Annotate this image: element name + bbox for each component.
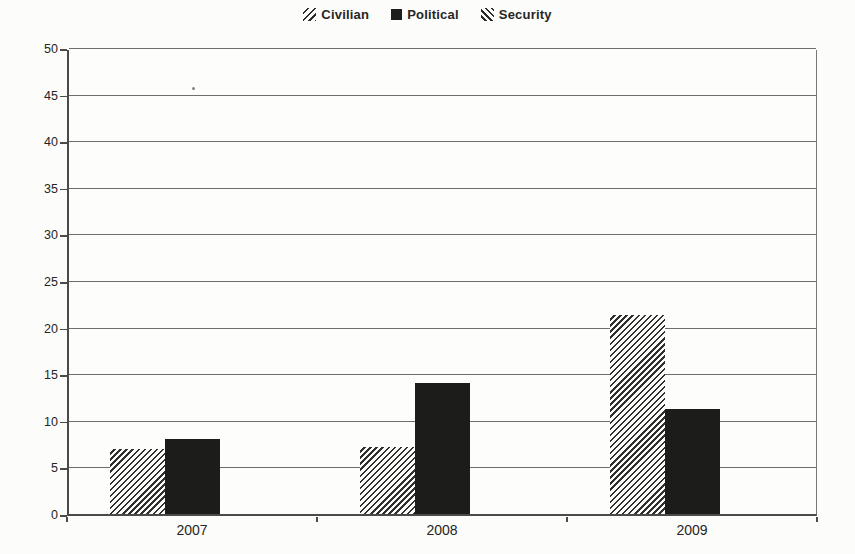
bar-civilian-2007 xyxy=(110,449,165,514)
legend-label-civilian: Civilian xyxy=(321,7,369,22)
bar-political-2007 xyxy=(165,439,220,514)
bar-political-2008 xyxy=(415,383,470,514)
scan-speck xyxy=(192,87,195,90)
x-tick-label-2008: 2008 xyxy=(397,522,487,538)
gridline-30 xyxy=(69,234,816,235)
y-tick-mark-15 xyxy=(60,375,67,377)
y-tick-label-5: 5 xyxy=(16,461,58,475)
scanned-bar-chart: Civilian Political Security 051015202530… xyxy=(0,0,855,554)
legend-item-security: Security xyxy=(481,7,552,22)
y-tick-mark-5 xyxy=(60,468,67,470)
y-tick-label-20: 20 xyxy=(16,322,58,336)
gridline-20 xyxy=(69,328,816,329)
y-tick-mark-20 xyxy=(60,329,67,331)
y-tick-mark-45 xyxy=(60,96,67,98)
security-hatch-swatch-icon xyxy=(481,8,494,21)
x-tick-mark-2 xyxy=(566,517,568,522)
x-tick-mark-3 xyxy=(816,517,818,522)
x-tick-mark-0 xyxy=(66,517,68,522)
bar-security-2008 xyxy=(470,166,525,514)
y-tick-mark-40 xyxy=(60,142,67,144)
gridline-40 xyxy=(69,141,816,142)
legend-item-political: Political xyxy=(391,7,459,22)
y-tick-mark-30 xyxy=(60,235,67,237)
gridline-45 xyxy=(69,95,816,96)
political-solid-swatch-icon xyxy=(391,9,402,20)
legend-item-civilian: Civilian xyxy=(303,7,369,22)
bar-security-2009 xyxy=(720,110,775,514)
y-tick-label-50: 50 xyxy=(16,42,58,56)
y-tick-label-30: 30 xyxy=(16,228,58,242)
legend-label-political: Political xyxy=(407,7,459,22)
y-tick-mark-10 xyxy=(60,422,67,424)
y-tick-label-0: 0 xyxy=(16,508,58,522)
bar-civilian-2008 xyxy=(360,447,415,514)
y-tick-label-40: 40 xyxy=(16,135,58,149)
x-tick-label-2007: 2007 xyxy=(147,522,237,538)
y-tick-label-25: 25 xyxy=(16,275,58,289)
civilian-hatch-swatch-icon xyxy=(303,8,316,21)
bar-civilian-2009 xyxy=(610,315,665,514)
y-tick-label-15: 15 xyxy=(16,368,58,382)
bar-security-2007 xyxy=(220,123,275,514)
y-tick-label-10: 10 xyxy=(16,415,58,429)
gridline-35 xyxy=(69,188,816,189)
y-tick-mark-35 xyxy=(60,189,67,191)
gridline-50 xyxy=(69,48,816,49)
chart-legend: Civilian Political Security xyxy=(0,7,855,22)
x-tick-mark-1 xyxy=(316,517,318,522)
gridline-15 xyxy=(69,374,816,375)
y-tick-mark-50 xyxy=(60,49,67,51)
gridline-25 xyxy=(69,281,816,282)
y-tick-mark-0 xyxy=(60,515,67,517)
y-tick-label-45: 45 xyxy=(16,89,58,103)
x-tick-label-2009: 2009 xyxy=(647,522,737,538)
bar-political-2009 xyxy=(665,409,720,514)
legend-label-security: Security xyxy=(499,7,552,22)
plot-area xyxy=(67,50,817,516)
y-tick-mark-25 xyxy=(60,282,67,284)
y-tick-label-35: 35 xyxy=(16,182,58,196)
